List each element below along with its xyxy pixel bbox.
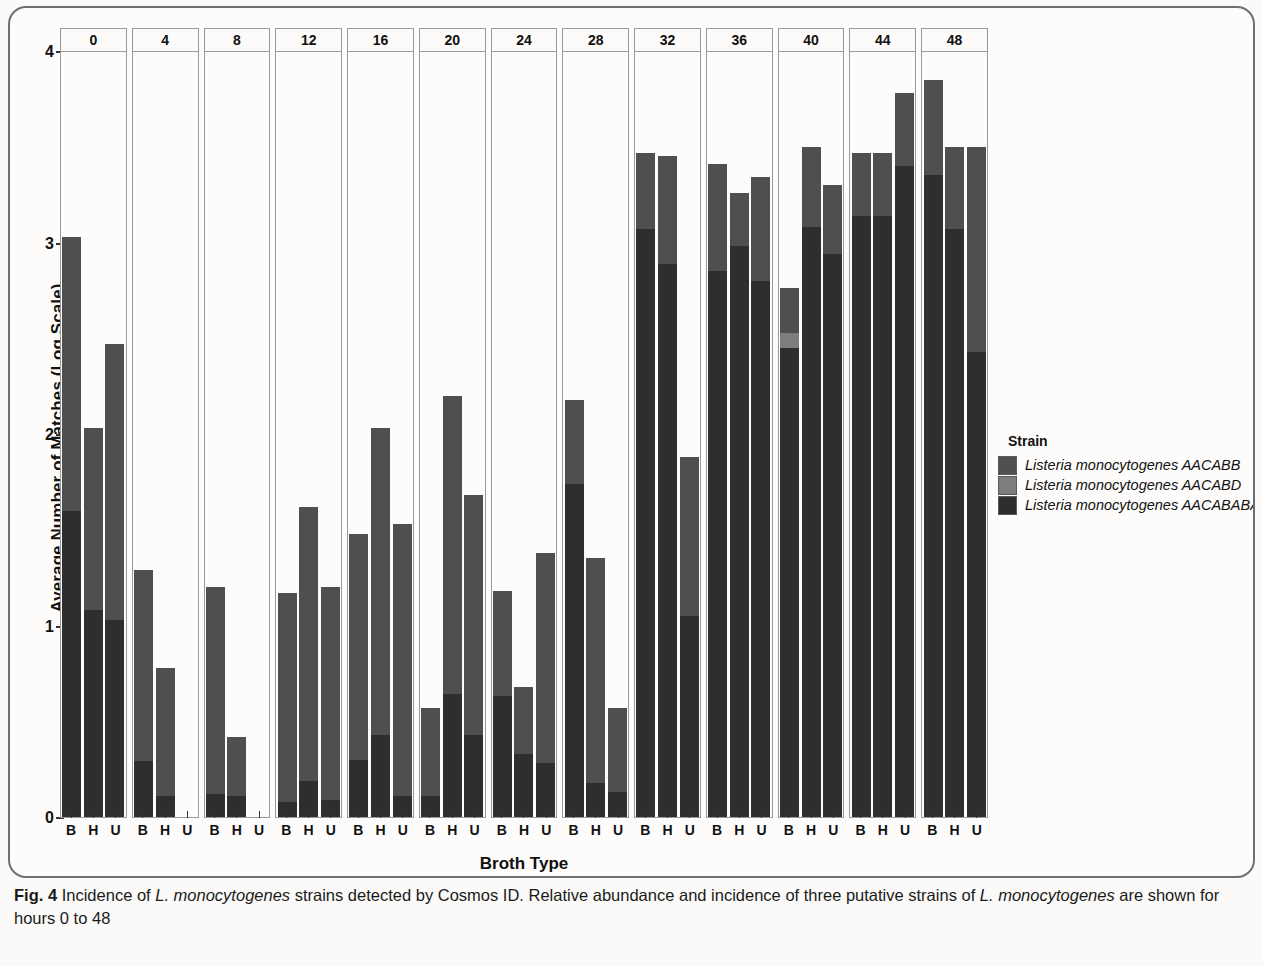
x-tick-label-U: U — [321, 822, 340, 838]
legend-title: Strain — [1008, 433, 1248, 449]
x-tick-mark — [905, 811, 906, 818]
bar-group — [420, 52, 485, 817]
x-tick-label-H: H — [658, 822, 677, 838]
x-tick-mark — [788, 811, 789, 818]
bar-segment — [924, 175, 943, 817]
x-tick-label-B: B — [779, 822, 798, 838]
bar-group — [779, 52, 844, 817]
bar-H[interactable] — [586, 558, 605, 817]
bar-U[interactable] — [751, 177, 770, 817]
bar-segment — [105, 344, 124, 620]
bar-group — [922, 52, 987, 817]
bar-group — [205, 52, 270, 817]
y-tick-label: 2 — [45, 426, 54, 444]
bar-H[interactable] — [873, 153, 892, 817]
bar-U[interactable] — [393, 524, 412, 817]
bar-H[interactable] — [156, 668, 175, 817]
x-tick-marks — [706, 811, 773, 818]
bar-H[interactable] — [443, 396, 462, 817]
facet-strip-label: 12 — [275, 28, 342, 52]
bar-B[interactable] — [636, 153, 655, 817]
legend-item[interactable]: Listeria monocytogenes AACABABA — [998, 495, 1248, 515]
bar-U[interactable] — [895, 93, 914, 817]
bar-B[interactable] — [134, 570, 153, 817]
bar-segment — [802, 147, 821, 227]
bar-U[interactable] — [321, 587, 340, 817]
x-tick-label-B: B — [277, 822, 296, 838]
x-tick-label-U: U — [178, 822, 197, 838]
bar-H[interactable] — [227, 737, 246, 817]
bar-B[interactable] — [708, 164, 727, 817]
bar-group — [276, 52, 341, 817]
bar-B[interactable] — [421, 708, 440, 817]
bar-B[interactable] — [565, 400, 584, 817]
bar-group — [133, 52, 198, 817]
facet-strip-label: 40 — [778, 28, 845, 52]
bar-B[interactable] — [278, 593, 297, 817]
facet-grid: 0BHU4BHU8BHU12BHU16BHU20BHU24BHU28BHU32B… — [60, 28, 988, 848]
bar-B[interactable] — [780, 288, 799, 817]
bar-U[interactable] — [967, 147, 986, 817]
x-tick-marks — [60, 811, 127, 818]
x-tick-mark — [811, 811, 812, 818]
x-tick-label-H: H — [730, 822, 749, 838]
bar-segment — [105, 620, 124, 817]
bar-B[interactable] — [852, 153, 871, 817]
legend-label: Listeria monocytogenes AACABB — [1025, 457, 1240, 473]
facet-panel-32: 32BHU — [634, 28, 701, 848]
x-tick-label-H: H — [802, 822, 821, 838]
bar-B[interactable] — [493, 591, 512, 817]
bar-segment — [493, 591, 512, 696]
bar-segment — [134, 761, 153, 817]
bar-U[interactable] — [680, 457, 699, 817]
x-tick-marks — [347, 811, 414, 818]
bar-segment — [321, 587, 340, 800]
bar-segment — [658, 156, 677, 263]
bar-U[interactable] — [608, 708, 627, 817]
x-tick-mark — [717, 811, 718, 818]
bar-segment — [823, 254, 842, 817]
x-tick-label-H: H — [586, 822, 605, 838]
x-tick-mark — [380, 811, 381, 818]
legend-item[interactable]: Listeria monocytogenes AACABD — [998, 475, 1248, 495]
bar-B[interactable] — [924, 80, 943, 817]
x-tick-label-B: B — [851, 822, 870, 838]
x-tick-label-B: B — [636, 822, 655, 838]
bar-H[interactable] — [514, 687, 533, 817]
x-tick-mark — [645, 811, 646, 818]
bar-H[interactable] — [802, 147, 821, 817]
bar-segment — [873, 216, 892, 817]
bar-segment — [62, 511, 81, 817]
bar-segment — [708, 164, 727, 271]
bar-B[interactable] — [206, 587, 225, 817]
x-tick-mark — [286, 811, 287, 818]
bar-H[interactable] — [299, 507, 318, 817]
bar-segment — [371, 735, 390, 817]
bar-U[interactable] — [105, 344, 124, 817]
bar-group — [492, 52, 557, 817]
bar-segment — [780, 348, 799, 817]
bar-B[interactable] — [62, 237, 81, 817]
bar-B[interactable] — [349, 534, 368, 817]
x-tick-label-H: H — [156, 822, 175, 838]
bar-U[interactable] — [823, 185, 842, 817]
x-tick-labels: BHU — [132, 820, 199, 840]
bar-segment — [536, 763, 555, 817]
bar-H[interactable] — [371, 428, 390, 817]
bar-H[interactable] — [730, 193, 749, 817]
x-tick-marks — [275, 811, 342, 818]
legend-item[interactable]: Listeria monocytogenes AACABB — [998, 455, 1248, 475]
bar-U[interactable] — [536, 553, 555, 817]
bar-segment — [680, 616, 699, 817]
legend-swatch-icon — [998, 456, 1017, 475]
bar-segment — [945, 147, 964, 229]
bar-U[interactable] — [464, 495, 483, 817]
figure-card: Average Number of Matches (Log Scale) 01… — [8, 6, 1255, 878]
bar-H[interactable] — [945, 147, 964, 817]
x-tick-labels: BHU — [562, 820, 629, 840]
bar-H[interactable] — [658, 156, 677, 817]
facet-strip-label: 0 — [60, 28, 127, 52]
bar-H[interactable] — [84, 428, 103, 817]
facet-strip-label: 36 — [706, 28, 773, 52]
bar-segment — [967, 352, 986, 817]
